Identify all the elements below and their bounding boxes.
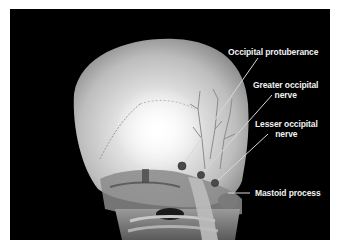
leader-line-lesser-occipital-nerve [215, 134, 268, 183]
leader-line-occipital-protuberance [183, 58, 258, 165]
label-occipital-protuberance: Occipital protuberance [228, 47, 318, 57]
marker-lesser-occipital-nerve [211, 179, 218, 186]
label-lesser-occipital-nerve: Lesser occipital nerve [255, 119, 318, 139]
label-greater-occipital-nerve: Greater occipital nerve [253, 80, 318, 100]
image-frame: Occipital protuberance Greater occipital… [10, 9, 330, 240]
marker-greater-occipital-nerve [197, 171, 204, 178]
marker-occipital-protuberance [178, 162, 186, 170]
label-mastoid-process: Mastoid process [255, 188, 321, 198]
